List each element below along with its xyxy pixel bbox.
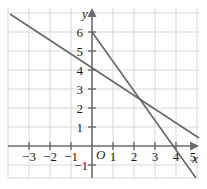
plot-area: −3 −2 −1 1 2 3 4 5 6 5 4 3 2 1 −1 O x y [0, 0, 207, 189]
y-tick-label-6: 6 [77, 25, 84, 40]
y-tick-label-2: 2 [77, 101, 84, 116]
y-axis-label: y [80, 6, 88, 21]
x-axis-label: x [191, 151, 198, 166]
x-tick-label-3: 3 [152, 149, 159, 164]
x-tick-label-1: 1 [110, 149, 117, 164]
coordinate-graph-figure: −3 −2 −1 1 2 3 4 5 6 5 4 3 2 1 −1 O x y [0, 0, 207, 189]
x-tick-label-2: 2 [131, 149, 138, 164]
y-tick-label-5: 5 [77, 44, 84, 59]
y-tick-label-1: 1 [77, 120, 84, 135]
x-tick-label-neg3: −3 [22, 149, 36, 164]
y-tick-label-3: 3 [77, 82, 84, 97]
y-tick-label-4: 4 [77, 63, 84, 78]
x-tick-label-4: 4 [173, 149, 180, 164]
y-tick-label-neg1: −1 [74, 158, 88, 173]
origin-label: O [96, 147, 106, 162]
x-tick-label-neg2: −2 [43, 149, 57, 164]
